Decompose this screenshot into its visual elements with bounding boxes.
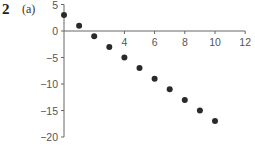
- data-point: [197, 108, 203, 114]
- y-tick-label: 0: [52, 25, 58, 37]
- x-tick-label: 4: [121, 36, 127, 48]
- x-tick-label: 8: [182, 36, 188, 48]
- data-point: [182, 97, 188, 103]
- data-point: [76, 23, 82, 29]
- x-tick-label: 12: [239, 36, 251, 48]
- y-tick-label: −10: [40, 78, 58, 90]
- data-point: [212, 118, 218, 124]
- y-tick-label: −20: [40, 131, 58, 143]
- x-tick-label: 10: [209, 36, 221, 48]
- scatter-chart: 50−5−10−15−204681012: [0, 0, 255, 149]
- data-point: [121, 55, 127, 61]
- data-point: [106, 44, 112, 50]
- data-point: [91, 33, 97, 39]
- x-tick-label: 6: [152, 36, 158, 48]
- data-point: [137, 65, 143, 71]
- data-point: [167, 86, 173, 92]
- data-point: [61, 12, 67, 18]
- data-point: [152, 76, 158, 82]
- y-tick-label: 5: [52, 0, 58, 11]
- y-tick-label: −5: [46, 52, 58, 64]
- y-tick-label: −15: [40, 105, 58, 117]
